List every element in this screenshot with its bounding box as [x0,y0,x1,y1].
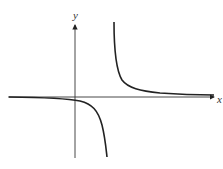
curve-right-branch [114,22,214,95]
curve-left-branch [9,97,107,157]
y-axis-label: y [73,9,78,21]
graph-canvas [0,0,223,169]
x-axis-label: x [217,93,222,105]
